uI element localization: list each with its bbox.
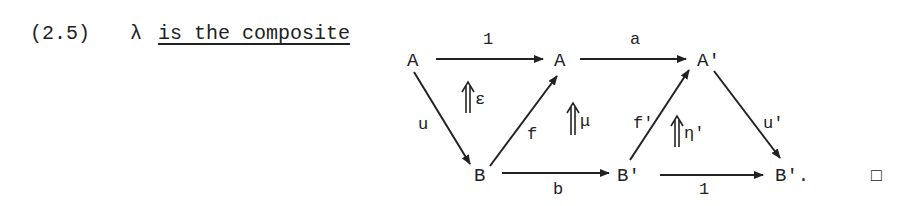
arrow-f [490, 76, 557, 166]
label-u-prime: u' [763, 114, 783, 133]
label-eta-prime: η' [684, 124, 704, 143]
commutative-diagram: A A A' B B' B'. 1 a u f f' u' b 1 ε μ η'… [0, 0, 909, 206]
node-bottom-middle: B' [617, 165, 640, 187]
label-b: b [553, 180, 563, 199]
node-bottom-right: B'. [775, 165, 809, 187]
label-a: a [630, 30, 640, 49]
end-of-proof-mark: □ [871, 166, 882, 186]
node-top-right: A' [697, 50, 720, 72]
label-f: f [527, 125, 537, 144]
node-bottom-left: B [474, 165, 485, 187]
label-1-bottom: 1 [699, 180, 709, 199]
node-top-left: A [407, 50, 419, 72]
label-f-prime: f' [633, 114, 653, 133]
label-u: u [418, 115, 428, 134]
label-epsilon: ε [475, 90, 485, 109]
node-top-middle: A [554, 50, 566, 72]
label-1-top: 1 [483, 30, 493, 49]
label-mu: μ [580, 112, 590, 131]
